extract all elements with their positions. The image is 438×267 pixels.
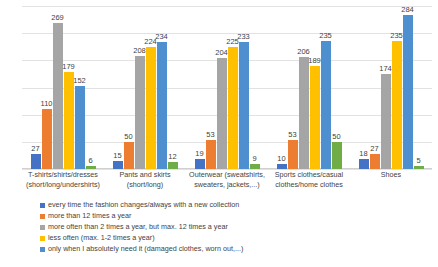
category-label: Sports clothes/casualclothes/home clothe… — [268, 170, 350, 196]
bar-value-label: 233 — [237, 32, 250, 41]
bar-slot: 235 — [392, 6, 402, 169]
legend-item[interactable]: more often than 2 times a year, but max.… — [40, 222, 400, 233]
bar-slot: 12 — [168, 6, 178, 169]
legend-label: every time the fashion changes/always wi… — [48, 200, 239, 210]
bar[interactable] — [42, 109, 52, 169]
bar[interactable] — [86, 166, 96, 169]
bar-slot: 50 — [332, 6, 342, 169]
legend-label: more often than 2 times a year, but max.… — [48, 222, 228, 232]
bar-value-label: 18 — [359, 149, 367, 158]
bar[interactable] — [124, 142, 134, 169]
bar[interactable] — [288, 140, 298, 169]
bar-slot: 5 — [414, 6, 424, 169]
category-label: Shoes — [350, 170, 432, 196]
bar[interactable] — [239, 42, 249, 169]
bar-slot: 174 — [381, 6, 391, 169]
bar-group: 105320618923550 — [268, 6, 350, 169]
bar-value-label: 50 — [332, 132, 340, 141]
bar[interactable] — [321, 41, 331, 169]
bar[interactable] — [277, 164, 287, 169]
bar[interactable] — [146, 47, 156, 169]
category-label: T-shirts/shirts/dresses(short/long/under… — [22, 170, 104, 196]
bar[interactable] — [310, 66, 320, 169]
bar-slot: 233 — [239, 6, 249, 169]
category-label: Outerwear (sweatshirts,sweaters, jackets… — [186, 170, 268, 196]
category-label-line: Pants and skirts — [105, 170, 185, 180]
bar[interactable] — [299, 57, 309, 169]
bar[interactable] — [414, 166, 424, 169]
legend-item[interactable]: every time the fashion changes/always wi… — [40, 200, 400, 211]
category-label-line: (short/long) — [105, 180, 185, 190]
bar-slot: 206 — [299, 6, 309, 169]
bar[interactable] — [31, 154, 41, 169]
legend-item[interactable]: only when I absolutely need it (damaged … — [40, 244, 400, 255]
bar[interactable] — [135, 56, 145, 169]
bar-value-label: 12 — [168, 152, 176, 161]
bar-slot: 235 — [321, 6, 331, 169]
bar[interactable] — [250, 164, 260, 169]
category-label-line: T-shirts/shirts/dresses — [23, 170, 103, 180]
bar-slot: 27 — [370, 6, 380, 169]
bar-slot: 53 — [288, 6, 298, 169]
bar[interactable] — [113, 161, 123, 169]
legend-swatch — [40, 214, 45, 219]
bar-value-label: 53 — [288, 130, 296, 139]
bar[interactable] — [75, 86, 85, 169]
legend-swatch — [40, 225, 45, 230]
bar[interactable] — [168, 162, 178, 169]
bar-value-label: 269 — [51, 13, 64, 22]
plot-area: 2711026917915261550208224234121953204225… — [22, 6, 432, 169]
bar-slot: 224 — [146, 6, 156, 169]
bar[interactable] — [228, 47, 238, 169]
bar-slot: 110 — [42, 6, 52, 169]
category-axis-labels: T-shirts/shirts/dresses(short/long/under… — [22, 170, 432, 196]
bar-slot: 18 — [359, 6, 369, 169]
bar[interactable] — [157, 42, 167, 169]
bar[interactable] — [217, 58, 227, 169]
bar[interactable] — [370, 154, 380, 169]
bar-value-label: 53 — [206, 130, 214, 139]
category-label-line: Shoes — [351, 170, 431, 180]
bar[interactable] — [332, 142, 342, 169]
bar-slot: 9 — [250, 6, 260, 169]
chart-legend: every time the fashion changes/always wi… — [40, 200, 400, 255]
bar[interactable] — [392, 41, 402, 169]
bar-slot: 10 — [277, 6, 287, 169]
bar-value-label: 10 — [277, 154, 285, 163]
bar-value-label: 152 — [73, 76, 86, 85]
bar-value-label: 5 — [416, 156, 420, 165]
bar-slot: 19 — [195, 6, 205, 169]
legend-item[interactable]: less often (max. 1-2 times a year) — [40, 233, 400, 244]
bar-slot: 284 — [403, 6, 413, 169]
category-label: Pants and skirts(short/long) — [104, 170, 186, 196]
bar-slot: 6 — [86, 6, 96, 169]
category-label-line: Outerwear (sweatshirts, — [187, 170, 267, 180]
bar-value-label: 179 — [62, 62, 75, 71]
bar-value-label: 9 — [252, 154, 256, 163]
bar-slot: 53 — [206, 6, 216, 169]
bar-slot: 189 — [310, 6, 320, 169]
legend-label: more than 12 times a year — [48, 211, 132, 221]
bar[interactable] — [195, 159, 205, 169]
bar-slot: 225 — [228, 6, 238, 169]
bar-slot: 204 — [217, 6, 227, 169]
bar-slot: 208 — [135, 6, 145, 169]
bar-slot: 234 — [157, 6, 167, 169]
bar[interactable] — [206, 140, 216, 169]
legend-item[interactable]: more than 12 times a year — [40, 211, 400, 222]
bar-value-label: 6 — [88, 156, 92, 165]
bar-group: 271102691791526 — [22, 6, 104, 169]
bar-chart: 2711026917915261550208224234121953204225… — [0, 0, 438, 267]
bar-value-label: 110 — [41, 99, 53, 108]
bar-value-label: 204 — [215, 48, 228, 57]
bar[interactable] — [64, 72, 74, 169]
bar-group: 155020822423412 — [104, 6, 186, 169]
bar-value-label: 15 — [113, 151, 121, 160]
bar-group: 19532042252339 — [186, 6, 268, 169]
bar[interactable] — [403, 15, 413, 169]
bar[interactable] — [381, 74, 391, 169]
category-label-line: (short/long/undershirts) — [23, 180, 103, 190]
bar[interactable] — [53, 23, 63, 169]
bar-value-label: 19 — [195, 149, 203, 158]
bar[interactable] — [359, 159, 369, 169]
